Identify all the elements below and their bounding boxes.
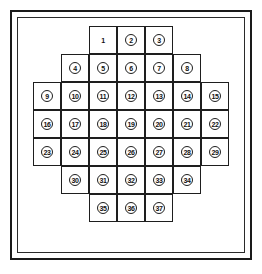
grid-cell-6[interactable]: 6	[117, 54, 145, 82]
grid-cell-7[interactable]: 7	[145, 54, 173, 82]
grid-cell-31[interactable]: 31	[89, 166, 117, 194]
grid-cell-label: 10	[69, 90, 81, 102]
grid-cell-label: 32	[125, 174, 137, 186]
grid-cell-label: 8	[181, 62, 193, 74]
grid-cell-21[interactable]: 21	[173, 110, 201, 138]
grid-cell-label: 15	[209, 90, 221, 102]
grid-cell-13[interactable]: 13	[145, 82, 173, 110]
grid-cell-4[interactable]: 4	[61, 54, 89, 82]
grid-cell-label: 13	[153, 90, 165, 102]
grid-cell-33[interactable]: 33	[145, 166, 173, 194]
grid-cell-12[interactable]: 12	[117, 82, 145, 110]
grid-cell-label: 30	[69, 174, 81, 186]
grid-cell-19[interactable]: 19	[117, 110, 145, 138]
grid-cell-2[interactable]: 2	[117, 26, 145, 54]
grid-cell-24[interactable]: 24	[61, 138, 89, 166]
grid-cell-label: 6	[125, 62, 137, 74]
grid-cell-label: 9	[41, 90, 53, 102]
grid-cell-34[interactable]: 34	[173, 166, 201, 194]
grid-cell-9[interactable]: 9	[33, 82, 61, 110]
grid-cell-3[interactable]: 3	[145, 26, 173, 54]
grid-cell-label: 33	[153, 174, 165, 186]
grid-cell-14[interactable]: 14	[173, 82, 201, 110]
grid-cell-label: 24	[69, 146, 81, 158]
grid-cell-17[interactable]: 17	[61, 110, 89, 138]
grid-cell-1[interactable]: 1	[89, 26, 117, 54]
grid-cell-32[interactable]: 32	[117, 166, 145, 194]
cell-grid: 1234567891011121314151617181920212223242…	[0, 0, 262, 274]
grid-cell-label: 29	[209, 146, 221, 158]
grid-cell-label: 37	[153, 202, 165, 214]
grid-cell-35[interactable]: 35	[89, 194, 117, 222]
grid-cell-36[interactable]: 36	[117, 194, 145, 222]
grid-cell-label: 21	[181, 118, 193, 130]
grid-cell-label: 16	[41, 118, 53, 130]
grid-cell-label: 20	[153, 118, 165, 130]
grid-cell-16[interactable]: 16	[33, 110, 61, 138]
figure-container: 1234567891011121314151617181920212223242…	[0, 0, 262, 274]
grid-cell-label: 22	[209, 118, 221, 130]
grid-cell-27[interactable]: 27	[145, 138, 173, 166]
grid-cell-label: 5	[97, 62, 109, 74]
grid-cell-label: 28	[181, 146, 193, 158]
grid-cell-28[interactable]: 28	[173, 138, 201, 166]
grid-cell-18[interactable]: 18	[89, 110, 117, 138]
grid-cell-label: 12	[125, 90, 137, 102]
grid-cell-label: 34	[181, 174, 193, 186]
grid-cell-22[interactable]: 22	[201, 110, 229, 138]
grid-cell-label: 26	[125, 146, 137, 158]
grid-cell-11[interactable]: 11	[89, 82, 117, 110]
grid-cell-15[interactable]: 15	[201, 82, 229, 110]
grid-cell-label: 17	[69, 118, 81, 130]
grid-cell-label: 31	[97, 174, 109, 186]
grid-cell-5[interactable]: 5	[89, 54, 117, 82]
grid-cell-20[interactable]: 20	[145, 110, 173, 138]
grid-cell-37[interactable]: 37	[145, 194, 173, 222]
grid-cell-label: 2	[125, 34, 137, 46]
grid-cell-label: 27	[153, 146, 165, 158]
grid-cell-10[interactable]: 10	[61, 82, 89, 110]
grid-cell-8[interactable]: 8	[173, 54, 201, 82]
grid-cell-label: 3	[153, 34, 165, 46]
grid-cell-label: 25	[97, 146, 109, 158]
grid-cell-label: 11	[97, 90, 109, 102]
grid-cell-label: 18	[97, 118, 109, 130]
grid-cell-label: 19	[125, 118, 137, 130]
grid-cell-label: 23	[41, 146, 53, 158]
grid-cell-23[interactable]: 23	[33, 138, 61, 166]
grid-cell-30[interactable]: 30	[61, 166, 89, 194]
grid-cell-label: 1	[90, 27, 116, 53]
grid-cell-29[interactable]: 29	[201, 138, 229, 166]
grid-cell-25[interactable]: 25	[89, 138, 117, 166]
grid-cell-label: 7	[153, 62, 165, 74]
grid-cell-26[interactable]: 26	[117, 138, 145, 166]
grid-cell-label: 4	[69, 62, 81, 74]
grid-cell-label: 36	[125, 202, 137, 214]
grid-cell-label: 14	[181, 90, 193, 102]
grid-cell-label: 35	[97, 202, 109, 214]
